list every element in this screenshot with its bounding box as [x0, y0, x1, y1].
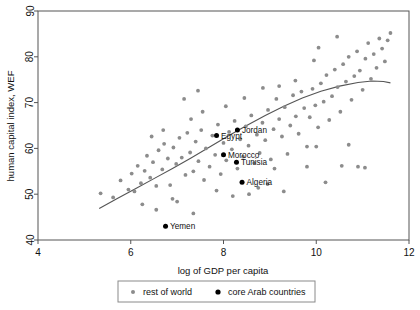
data-point-rest-of-world	[261, 86, 265, 90]
scatter-plot-svg: 405060708090 4681012 EgyptJordanMoroccoT…	[0, 0, 420, 310]
data-point-rest-of-world	[175, 200, 179, 204]
x-tick-label: 4	[35, 247, 41, 258]
data-point-rest-of-world	[372, 52, 376, 56]
point-label-egypt: Egypt	[221, 132, 243, 141]
data-point-rest-of-world	[317, 46, 321, 50]
data-point-rest-of-world	[312, 59, 316, 63]
data-point-rest-of-world	[247, 192, 251, 196]
plot-frame	[38, 11, 409, 240]
data-point-rest-of-world	[269, 157, 273, 161]
data-point-rest-of-world	[154, 208, 158, 212]
data-point-rest-of-world	[160, 168, 164, 172]
data-point-rest-of-world	[154, 184, 158, 188]
data-point-rest-of-world	[266, 108, 270, 112]
legend: rest of world core Arab countries	[118, 281, 315, 302]
x-tick-label: 8	[221, 247, 227, 258]
data-point-yemen	[163, 224, 168, 229]
data-point-rest-of-world	[247, 144, 251, 148]
y-axis-title: human capital index, WEF	[5, 70, 16, 181]
data-point-rest-of-world	[224, 104, 228, 108]
data-point-rest-of-world	[274, 97, 278, 101]
data-point-rest-of-world	[168, 183, 172, 187]
data-point-rest-of-world	[330, 94, 334, 98]
data-point-rest-of-world	[340, 164, 344, 168]
data-point-rest-of-world	[286, 152, 290, 156]
data-point-rest-of-world	[358, 69, 362, 73]
data-point-rest-of-world	[242, 96, 246, 100]
x-tick-label: 12	[403, 247, 415, 258]
x-tick-label: 6	[128, 247, 134, 258]
data-point-rest-of-world	[130, 172, 134, 176]
data-point-rest-of-world	[172, 146, 176, 150]
data-point-rest-of-world	[336, 85, 340, 89]
data-point-rest-of-world	[324, 180, 328, 184]
data-point-rest-of-world	[197, 159, 201, 163]
data-point-rest-of-world	[294, 114, 298, 118]
data-point-rest-of-world	[316, 125, 320, 129]
data-point-rest-of-world	[99, 191, 103, 195]
data-point-rest-of-world	[319, 81, 323, 85]
data-point-rest-of-world	[201, 110, 205, 114]
data-point-rest-of-world	[150, 135, 154, 139]
data-point-rest-of-world	[210, 134, 214, 138]
y-tick-label: 90	[25, 5, 36, 17]
data-point-morocco	[221, 152, 226, 157]
data-point-rest-of-world	[182, 97, 186, 101]
x-axis-title: log of GDP per capita	[178, 265, 269, 276]
data-point-rest-of-world	[369, 77, 373, 81]
data-point-rest-of-world	[375, 66, 379, 70]
legend-marker-core-arab-countries	[215, 289, 220, 294]
data-point-rest-of-world	[119, 179, 123, 183]
y-tick-label: 70	[25, 97, 36, 109]
data-point-rest-of-world	[293, 79, 297, 83]
data-point-rest-of-world	[199, 128, 203, 132]
data-point-rest-of-world	[171, 197, 175, 201]
data-point-rest-of-world	[355, 49, 359, 53]
data-point-rest-of-world	[133, 190, 137, 194]
data-point-rest-of-world	[208, 165, 212, 169]
legend-label-rest-of-world: rest of world	[143, 287, 192, 297]
y-tick-label: 40	[25, 234, 36, 246]
data-point-rest-of-world	[140, 202, 144, 206]
data-point-rest-of-world	[341, 62, 345, 66]
data-point-rest-of-world	[111, 196, 115, 200]
data-point-rest-of-world	[352, 74, 356, 78]
data-point-rest-of-world	[194, 140, 198, 144]
x-axis-ticks: 4681012	[35, 240, 415, 258]
data-point-rest-of-world	[363, 166, 367, 170]
data-point-rest-of-world	[380, 47, 384, 51]
data-point-rest-of-world	[300, 90, 304, 94]
data-point-rest-of-world	[383, 59, 387, 63]
legend-marker-rest-of-world	[131, 290, 135, 294]
data-point-rest-of-world	[204, 147, 208, 151]
data-point-rest-of-world	[166, 157, 170, 161]
data-point-rest-of-world	[145, 154, 149, 158]
data-point-rest-of-world	[127, 188, 131, 192]
data-point-rest-of-world	[305, 165, 309, 169]
data-point-rest-of-world	[188, 151, 192, 155]
data-point-rest-of-world	[191, 212, 195, 216]
data-point-rest-of-world	[333, 68, 337, 72]
data-point-rest-of-world	[143, 169, 147, 173]
data-point-rest-of-world	[327, 118, 331, 122]
y-tick-label: 80	[25, 51, 36, 63]
point-label-jordan: Jordan	[242, 126, 267, 135]
data-point-rest-of-world	[184, 173, 188, 177]
data-point-rest-of-world	[314, 145, 318, 149]
data-point-rest-of-world	[219, 172, 223, 176]
y-tick-label: 50	[25, 188, 36, 200]
data-point-rest-of-world	[325, 73, 329, 77]
data-point-rest-of-world	[389, 31, 393, 35]
data-point-rest-of-world	[139, 181, 143, 185]
data-point-rest-of-world	[305, 145, 309, 149]
y-tick-label: 60	[25, 142, 36, 154]
data-point-rest-of-world	[347, 143, 351, 147]
data-point-egypt	[214, 133, 219, 138]
data-point-rest-of-world	[277, 117, 281, 121]
point-label-algeria: Algeria	[247, 178, 273, 187]
y-axis-ticks: 405060708090	[25, 5, 39, 246]
data-point-rest-of-world	[222, 141, 226, 145]
data-point-jordan	[235, 128, 240, 133]
data-point-rest-of-world	[162, 142, 166, 146]
data-point-rest-of-world	[361, 88, 365, 92]
